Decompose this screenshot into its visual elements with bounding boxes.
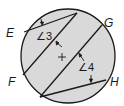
circle-diagram: E G F H ∠3 ∠4 xyxy=(0,0,124,106)
label-g: G xyxy=(104,16,113,30)
label-f: F xyxy=(8,75,16,89)
label-angle4: ∠4 xyxy=(78,61,94,73)
label-e: E xyxy=(6,26,15,40)
label-h: H xyxy=(110,75,119,89)
label-angle3: ∠3 xyxy=(36,30,52,42)
